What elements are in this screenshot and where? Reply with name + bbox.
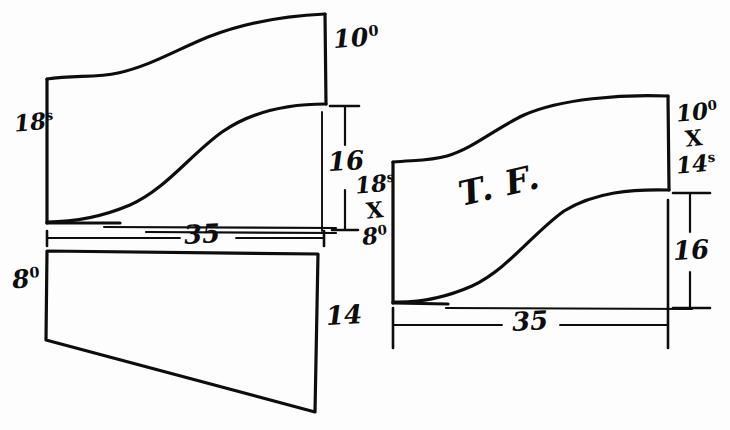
left-upper-right-edge: [325, 14, 326, 104]
left-upper-body: [47, 14, 326, 223]
right-outlet-bottom-label: 14s: [675, 150, 716, 176]
sketch-root: 18s 100 16 35 80 14 T. F. 18s X 80 100 X…: [0, 0, 730, 430]
right-outlet-bottom-sup: s: [707, 149, 716, 166]
right-right-edge: [668, 96, 669, 190]
left-width-dim-label: 35: [183, 220, 220, 248]
right-top-curve: [393, 96, 668, 162]
right-outlet-top-sup: 0: [707, 97, 718, 114]
left-lower-body: [46, 251, 318, 412]
left-upper-outlet-sup: 0: [368, 21, 380, 39]
right-inlet-top-sup: s: [386, 169, 395, 186]
right-inlet-multiply-sign: X: [365, 198, 384, 222]
left-upper-throat-curve: [47, 104, 326, 222]
right-inlet-top-label: 18s: [354, 170, 395, 196]
right-base-stub: [393, 303, 448, 304]
right-body: [393, 96, 669, 304]
right-inlet-size-stack: 18s X 80: [355, 172, 395, 247]
left-lower-inlet-sup: 0: [29, 263, 41, 281]
left-upper-inlet-sup: s: [45, 107, 54, 124]
right-base-rule: [446, 308, 692, 309]
right-width-dim-label: 35: [511, 307, 548, 335]
left-base-rule-upper: [104, 227, 336, 228]
left-lower-inlet-label: 80: [11, 265, 41, 292]
right-inlet-bottom-label: 80: [361, 223, 388, 248]
right-inlet-bottom-sup: 0: [377, 221, 388, 238]
left-base-rule-lower: [146, 232, 336, 233]
left-upper-outlet-label: 100: [332, 23, 380, 52]
left-upper-inlet-label: 18s: [13, 108, 54, 134]
right-outlet-multiply-sign: X: [684, 126, 703, 150]
right-outlet-size-stack: 100 X 14s: [676, 100, 717, 175]
right-height-dim-label: 16: [672, 236, 709, 264]
right-throat-curve: [393, 190, 669, 302]
right-outlet-top-label: 100: [675, 98, 718, 125]
left-lower-outline: [46, 251, 318, 412]
left-upper-top-curve: [47, 14, 325, 79]
left-lower-outlet-label: 14: [325, 301, 362, 329]
